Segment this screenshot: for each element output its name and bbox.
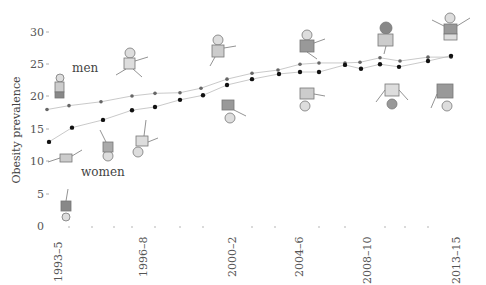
women-label: women <box>81 165 125 179</box>
data-point <box>99 100 103 104</box>
woman-figure-icon <box>48 150 82 162</box>
woman-figure-icon <box>431 84 453 111</box>
man-figure-icon <box>55 74 64 98</box>
man-figure-icon <box>432 13 470 40</box>
data-point <box>298 70 302 74</box>
woman-figure-icon <box>300 88 325 111</box>
data-point <box>130 94 134 98</box>
x-tick: 2013–15 <box>450 237 463 285</box>
data-point <box>378 56 382 60</box>
y-tick: 5 <box>37 188 44 201</box>
data-point <box>359 67 363 71</box>
man-figure-icon <box>378 22 393 54</box>
data-point <box>378 62 382 66</box>
woman-figure-icon <box>376 84 408 109</box>
woman-figure-icon <box>222 100 246 123</box>
data-point <box>225 77 229 81</box>
data-point <box>276 68 280 72</box>
woman-figure-icon <box>100 130 113 161</box>
data-point <box>449 54 453 58</box>
data-point <box>250 77 254 81</box>
data-point <box>225 83 229 87</box>
data-point <box>70 125 74 129</box>
data-point <box>398 59 402 63</box>
data-point <box>317 61 321 65</box>
x-axis: 1993–5 1996–8 2000–2 2004–6 2008–10 2013… <box>52 237 463 285</box>
y-axis: 30 25 20 15 10 5 0 <box>30 26 49 233</box>
y-axis-label: Obesity prevalence <box>10 76 23 183</box>
woman-figure-icon <box>61 189 71 221</box>
y-tick: 10 <box>30 155 44 168</box>
data-point <box>153 92 157 96</box>
y-tick: 0 <box>37 220 44 233</box>
data-point <box>47 140 51 144</box>
data-point <box>178 98 182 102</box>
x-tick: 1993–5 <box>52 242 65 283</box>
x-tick: 2008–10 <box>361 237 374 285</box>
data-point <box>45 108 49 112</box>
man-figure-icon <box>116 48 148 77</box>
data-point <box>178 91 182 95</box>
data-point <box>426 55 430 59</box>
data-point <box>130 108 134 112</box>
data-point <box>426 59 430 63</box>
x-tick: 1996–8 <box>137 237 150 278</box>
men-label: men <box>72 61 98 75</box>
y-tick: 15 <box>30 123 44 136</box>
x-axis-ticks <box>68 226 429 228</box>
x-tick: 2004–6 <box>293 237 306 278</box>
man-figure-icon <box>300 30 325 59</box>
woman-figure-icon <box>133 120 158 157</box>
man-figure-icon <box>210 35 236 66</box>
data-point <box>343 63 347 67</box>
data-point <box>277 72 281 76</box>
obesity-chart: Obesity prevalence 30 25 20 15 10 5 0 19… <box>0 0 486 285</box>
data-point <box>101 118 105 122</box>
data-point <box>199 86 203 90</box>
data-point <box>317 70 321 74</box>
data-point <box>67 104 71 108</box>
y-tick: 30 <box>30 26 44 39</box>
data-point <box>397 65 401 69</box>
y-tick: 25 <box>30 58 44 71</box>
data-point <box>153 105 157 109</box>
data-point <box>250 72 254 76</box>
data-point <box>358 61 362 65</box>
y-tick: 20 <box>30 90 44 103</box>
data-point <box>201 93 205 97</box>
x-tick: 2000–2 <box>226 237 239 278</box>
data-point <box>298 62 302 66</box>
